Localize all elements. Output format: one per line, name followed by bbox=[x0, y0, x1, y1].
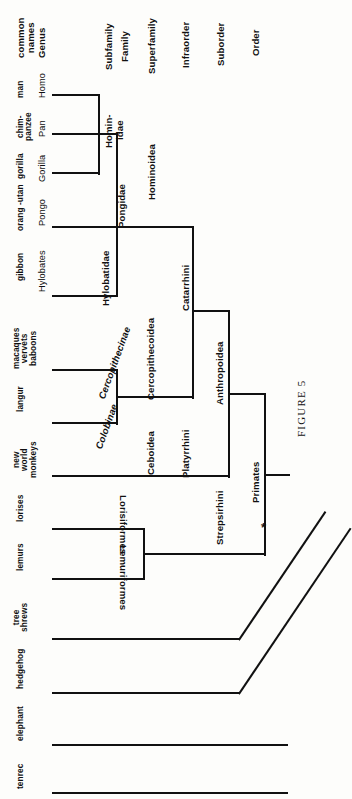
tip-common-hylobates: gibbon bbox=[16, 253, 24, 281]
tip-genus-homo: Homo bbox=[38, 73, 47, 98]
clade-label-hominidae-line1: Homin- bbox=[104, 114, 114, 148]
rank-header-genus: Genus bbox=[37, 28, 47, 58]
stem-hominoidea bbox=[156, 226, 194, 228]
rank-header-family: Family bbox=[120, 31, 130, 62]
clade-label-strepsirhini: Strepsirhini bbox=[215, 490, 225, 545]
stem-catarrhini bbox=[192, 310, 230, 312]
clade-label-anthropoidea: Anthropoidea bbox=[215, 341, 225, 405]
stem-strepsirhini bbox=[143, 553, 266, 555]
branch-hylobates bbox=[52, 295, 118, 297]
rank-header-infraorder: Infraorder bbox=[181, 22, 191, 68]
clade-label-hylobatidae: Hylobatidae bbox=[101, 251, 111, 306]
branch-langur bbox=[52, 422, 118, 424]
clade-label-ceboidea: Ceboidea bbox=[146, 431, 156, 475]
rank-header-suborder: Suborder bbox=[216, 23, 226, 66]
tip-common-pongo: orang -utan bbox=[16, 184, 24, 231]
branch-lemurs bbox=[52, 578, 145, 580]
tip-common-lemurs: lemurs bbox=[16, 543, 24, 571]
tip-common-tree-shrews: tree shrews bbox=[12, 603, 29, 632]
branch-elephant bbox=[52, 744, 288, 746]
tip-common-pan: chim- panzee bbox=[16, 112, 33, 141]
clade-label-catarrhini: Catarrhini bbox=[181, 265, 191, 311]
tip-common-homo: man bbox=[16, 81, 24, 98]
rank-header-subfamily: Subfamily bbox=[104, 23, 114, 70]
rank-header-order: Order bbox=[251, 29, 261, 56]
branch-pongo bbox=[52, 226, 118, 228]
tip-genus-pan: Pan bbox=[38, 120, 47, 137]
tip-common-elephant: elephant bbox=[16, 706, 24, 741]
tip-common-lorises: lorises bbox=[16, 495, 24, 522]
branch-tree-shrews bbox=[52, 638, 240, 640]
tip-genus-hylobates: Hylobates bbox=[38, 250, 47, 292]
tip-common-new-world-monkeys: new world monkeys bbox=[12, 441, 37, 478]
branch-new-world-monkeys bbox=[52, 475, 230, 477]
branch-gorilla bbox=[52, 172, 100, 174]
branch-tenrec bbox=[52, 792, 288, 794]
tip-common-gorilla: gorilla bbox=[16, 153, 24, 179]
tip-genus-gorilla: Gorilla bbox=[38, 155, 47, 182]
branch-cercopithecines bbox=[52, 369, 118, 371]
node-hylobatidae bbox=[116, 226, 118, 297]
branch-hedgehog bbox=[52, 692, 240, 694]
clade-label-hominoidea: Hominoidea bbox=[147, 144, 157, 200]
clade-label-cercopithecoidea: Cercopithecoidea bbox=[146, 318, 156, 400]
rank-header-superfamily: Superfamily bbox=[147, 18, 157, 74]
node-hominidae bbox=[116, 133, 118, 228]
rank-header-common-names: common names bbox=[16, 17, 36, 58]
tip-genus-pongo: Pongo bbox=[38, 199, 47, 226]
stem-cercopithecoidea bbox=[116, 396, 194, 398]
stem-pongidae bbox=[116, 226, 158, 228]
stem-primates bbox=[264, 474, 290, 476]
tip-common-tenrec: tenrec bbox=[16, 763, 24, 789]
branch-pan bbox=[52, 133, 118, 135]
tip-common-hedgehog: hedgehog bbox=[16, 649, 24, 689]
clade-label-platyrrhini: Platyrrhini bbox=[181, 429, 191, 478]
tip-common-langur: langur bbox=[16, 386, 24, 412]
clade-label-cercopithecinae: Cercopithecinae bbox=[97, 325, 132, 400]
clade-label-pongidae: Pongidae bbox=[117, 184, 127, 228]
stem-anthropoidea bbox=[228, 393, 266, 395]
node-catarrhini bbox=[192, 226, 194, 399]
figure-caption: FIGURE 5 bbox=[296, 379, 307, 437]
branch-tree-shrews-diagonal bbox=[238, 511, 327, 641]
clade-label-primates: Primates bbox=[251, 462, 261, 503]
branch-lorises bbox=[52, 528, 145, 530]
branch-homo bbox=[52, 94, 100, 96]
tip-common-cercopithecines: macaques vervets baboons bbox=[12, 328, 37, 369]
